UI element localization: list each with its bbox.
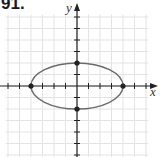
x-axis-label: x (149, 84, 156, 99)
vertex-point (28, 83, 33, 88)
y-axis-label: y (64, 0, 72, 15)
vertex-point (120, 83, 125, 88)
vertex-point (74, 60, 79, 65)
coordinate-plane: x y (0, 0, 160, 157)
y-axis-arrow-icon (74, 3, 80, 11)
vertex-point (74, 106, 79, 111)
